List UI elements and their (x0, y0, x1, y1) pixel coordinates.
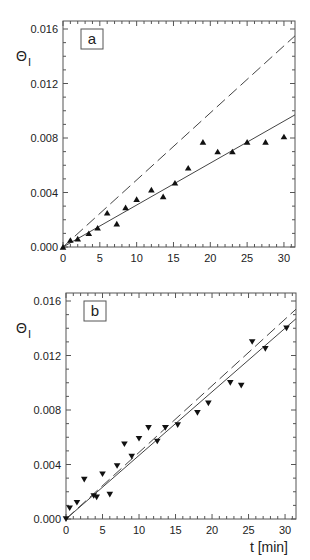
x-tick-label: 30 (279, 524, 291, 536)
x-tick-label: 10 (131, 252, 143, 264)
triangle-down-marker (128, 454, 135, 460)
y-tick-label: 0.004 (30, 187, 58, 199)
y-tick-label: 0.000 (30, 241, 58, 253)
series-group (66, 309, 296, 519)
y-axis-title-subscript: I (28, 328, 31, 340)
triangle-down-marker (66, 505, 73, 511)
triangle-up-marker (281, 134, 288, 140)
y-tick-label: 0.012 (30, 78, 58, 90)
triangle-down-marker (81, 477, 88, 483)
x-tick-label: 25 (242, 524, 254, 536)
triangle-down-marker (194, 410, 201, 416)
triangle-up-marker (122, 205, 129, 211)
plot-frame (66, 293, 296, 519)
x-tick-label: 20 (204, 252, 216, 264)
triangle-up-marker (244, 139, 251, 145)
triangle-up-marker (172, 180, 179, 186)
x-tick-label: 0 (63, 524, 69, 536)
triangle-down-marker (121, 441, 128, 447)
y-tick-label: 0.000 (33, 513, 61, 525)
y-tick-label: 0.016 (33, 295, 61, 307)
triangle-up-marker (104, 210, 111, 216)
y-tick-label: 0.004 (33, 459, 61, 471)
triangle-down-marker (145, 425, 152, 431)
triangle-up-marker (214, 149, 221, 155)
triangle-down-marker (262, 346, 269, 352)
x-axis-title: t [min] (250, 539, 288, 555)
triangle-down-marker (174, 422, 181, 428)
triangle-down-marker (227, 380, 234, 386)
panel-a-plot: 0510152025300.0000.0040.0080.0120.016ΘIa (16, 21, 295, 264)
triangle-down-marker (114, 463, 121, 469)
y-axis-title: Θ (16, 48, 27, 64)
y-tick-label: 0.016 (30, 23, 58, 35)
triangle-up-marker (113, 221, 120, 227)
figure: 0510152025300.0000.0040.0080.0120.016ΘIa… (0, 0, 310, 560)
triangle-down-marker (107, 492, 114, 498)
y-tick-label: 0.012 (33, 350, 61, 362)
series-group (63, 36, 295, 247)
panel-label: b (91, 302, 99, 319)
x-tick-label: 15 (169, 524, 181, 536)
x-tick-label: 10 (133, 524, 145, 536)
dashed-model-line (66, 309, 296, 519)
plot-frame (63, 21, 295, 247)
triangle-down-marker (238, 383, 245, 389)
triangle-up-marker (200, 139, 207, 145)
x-tick-label: 20 (206, 524, 218, 536)
triangle-up-marker (262, 139, 269, 145)
dashed-model-line (63, 36, 295, 247)
x-tick-label: 0 (60, 252, 66, 264)
triangle-down-marker (136, 436, 143, 442)
triangle-down-marker (205, 401, 212, 407)
y-tick-label: 0.008 (30, 132, 58, 144)
solid-fit-line (66, 319, 296, 519)
panel-b-plot: 0510152025300.0000.0040.0080.0120.016ΘIt… (16, 293, 296, 555)
x-tick-label: 30 (278, 252, 290, 264)
panel-label: a (88, 30, 97, 47)
triangle-up-marker (74, 236, 81, 242)
x-tick-label: 15 (167, 252, 179, 264)
y-axis-title: Θ (16, 320, 27, 336)
x-tick-label: 5 (99, 524, 105, 536)
y-tick-label: 0.008 (33, 404, 61, 416)
triangle-up-marker (185, 165, 192, 171)
triangle-down-marker (74, 500, 81, 506)
x-tick-label: 5 (97, 252, 103, 264)
triangle-up-marker (67, 237, 74, 243)
triangle-up-marker (160, 194, 167, 200)
triangle-down-marker (99, 471, 106, 477)
triangle-down-marker (249, 339, 256, 345)
x-tick-label: 25 (241, 252, 253, 264)
triangle-up-marker (148, 187, 155, 193)
triangle-up-marker (133, 196, 140, 202)
y-axis-title-subscript: I (28, 56, 31, 68)
